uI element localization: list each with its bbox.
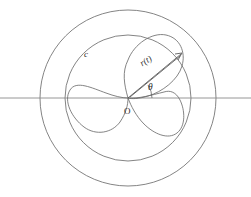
figure-root: c r(t) θ O xyxy=(0,0,251,197)
angle-label-theta: θ xyxy=(148,83,153,93)
figure-canvas xyxy=(0,0,251,197)
curve-c-upper-lobe xyxy=(124,35,183,99)
curve-label-c: c xyxy=(84,50,88,59)
radius-vector-line xyxy=(128,54,181,98)
curve-c-left-lobe xyxy=(68,85,128,132)
origin-label: O xyxy=(124,107,131,116)
radius-vector-guide-line xyxy=(130,56,180,97)
